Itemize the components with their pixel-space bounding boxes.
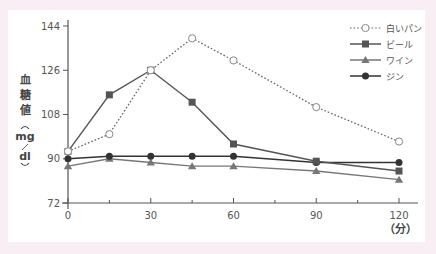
- legend-item: ジン: [350, 72, 404, 82]
- open-circle-marker: [64, 148, 71, 155]
- series-group: [64, 35, 403, 183]
- x-tick-label: 60: [227, 210, 240, 221]
- y-title-char: 糖: [20, 88, 31, 102]
- y-tick-label: 108: [41, 109, 60, 120]
- legend-item: 白いパン: [350, 23, 422, 34]
- series-line: [68, 38, 399, 151]
- filled-circle-marker: [396, 159, 403, 166]
- legend-item: ビール: [350, 40, 413, 50]
- series-0: [64, 35, 402, 155]
- legend-label: ビール: [386, 40, 413, 50]
- legend-label: 白いパン: [386, 23, 422, 34]
- filled-circle-marker: [189, 153, 196, 160]
- open-circle-marker: [147, 67, 154, 74]
- y-axis-title: 血糖値mgdl: [15, 73, 34, 166]
- legend-label: ワイン: [386, 56, 413, 66]
- open-circle-marker: [395, 138, 402, 145]
- open-circle-marker: [189, 35, 196, 42]
- y-tick-label: 90: [47, 153, 60, 164]
- legend-label: ジン: [386, 72, 404, 82]
- filled-circle-marker: [362, 73, 369, 80]
- square-marker: [230, 141, 237, 148]
- x-tick-label: 120: [389, 210, 408, 221]
- y-title-char: 値: [19, 103, 31, 117]
- paren-open: [21, 127, 29, 130]
- x-tick-label: 30: [144, 210, 157, 221]
- square-marker: [396, 168, 403, 175]
- y-title-char: 血: [20, 73, 31, 87]
- x-tick-label: 90: [310, 210, 323, 221]
- square-marker: [362, 41, 369, 48]
- filled-circle-marker: [106, 153, 113, 160]
- x-tick-label: 0: [65, 210, 71, 221]
- filled-circle-marker: [65, 155, 72, 162]
- open-circle-marker: [313, 104, 320, 111]
- line-chart: 72901081261440306090120（分） 白いパンビールワインジン …: [0, 0, 436, 254]
- open-circle-marker: [106, 131, 113, 138]
- x-axis-unit: （分）: [384, 222, 417, 236]
- y-unit-bottom: dl: [19, 150, 31, 163]
- open-circle-marker: [362, 24, 369, 31]
- legend: 白いパンビールワインジン: [350, 23, 422, 82]
- axes: 72901081261440306090120（分）: [41, 20, 418, 236]
- y-tick-label: 144: [41, 21, 60, 32]
- legend-item: ワイン: [350, 56, 413, 66]
- filled-circle-marker: [230, 153, 237, 160]
- square-marker: [106, 91, 113, 98]
- y-tick-label: 72: [47, 198, 60, 209]
- y-unit-top: mg: [15, 130, 34, 143]
- square-marker: [313, 158, 320, 165]
- square-marker: [189, 99, 196, 106]
- paren-close: [21, 163, 29, 166]
- filled-circle-marker: [147, 153, 154, 160]
- open-circle-marker: [230, 57, 237, 64]
- y-tick-label: 126: [41, 65, 60, 76]
